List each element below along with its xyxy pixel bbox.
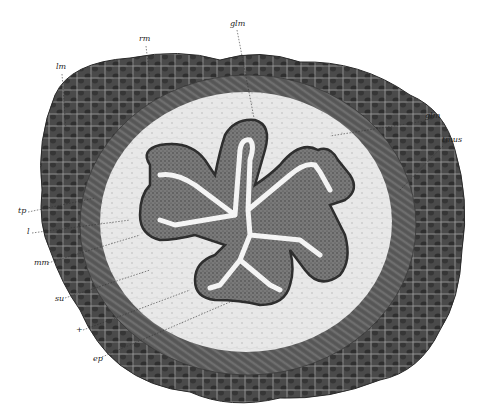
- label-lm: lm: [56, 63, 66, 71]
- label-ep: ep: [93, 355, 103, 363]
- label-l: l: [27, 228, 30, 236]
- label-glm-top: glm: [230, 20, 245, 28]
- label-su: su: [55, 295, 64, 303]
- label-tp: tp: [18, 207, 26, 215]
- esophagus-cross-section-figure: lm rm glm glm tmus tp l mm su + ep: [0, 0, 479, 419]
- label-tmus: tmus: [442, 136, 462, 144]
- label-plus: +: [76, 326, 83, 334]
- label-rm: rm: [139, 35, 150, 43]
- label-mm: mm: [34, 259, 49, 267]
- histology-illustration: [0, 0, 479, 419]
- label-glm-right: glm: [425, 112, 440, 120]
